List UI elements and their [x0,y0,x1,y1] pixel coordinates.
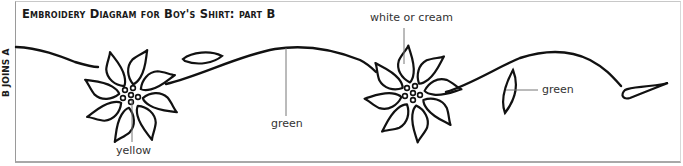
flower-1 [82,47,179,144]
vine-left [16,47,98,67]
flower-2 [364,45,461,142]
label-green-right: green [542,83,574,96]
embroidery-pattern-drawing [0,0,683,166]
label-green-middle: green [271,117,303,130]
leaf-3 [623,83,668,98]
label-white-or-cream: white or cream [370,11,453,24]
leaf-1 [183,52,222,63]
vine-right [446,52,621,92]
leaf-2 [503,70,516,113]
label-yellow: yellow [116,144,151,157]
